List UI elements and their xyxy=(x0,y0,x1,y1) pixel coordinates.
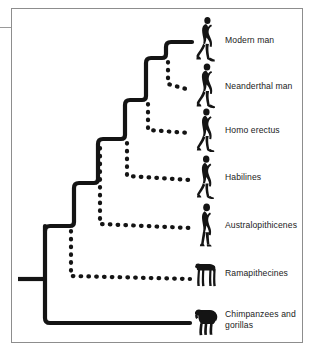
taxon-row-neanderthal-man[interactable]: Neanderthal man xyxy=(195,63,292,109)
taxon-label: Ramapithecines xyxy=(225,268,288,279)
standing-australopith-figure-icon xyxy=(195,203,219,247)
branch-dotted-homo-erectus xyxy=(148,104,190,133)
branch-root-trunk xyxy=(45,226,190,323)
branch-dotted-ramapithecines xyxy=(71,231,190,279)
walking-neanderthal-figure-icon xyxy=(195,63,219,109)
quadruped-ape-figure-icon xyxy=(195,257,219,289)
taxon-row-modern-man[interactable]: Modern man xyxy=(195,17,274,63)
taxon-label: Habilines xyxy=(225,172,261,183)
taxon-row-australopithicenes[interactable]: Australopithicenes xyxy=(195,203,297,247)
taxon-label: Chimpanzees and gorillas xyxy=(225,309,296,330)
taxon-label: Homo erectus xyxy=(225,125,280,136)
taxon-row-habilines[interactable]: Habilines xyxy=(195,155,261,199)
walking-human-figure-icon xyxy=(195,17,219,63)
walking-habiline-figure-icon xyxy=(195,155,219,199)
branch-dotted-neanderthal xyxy=(168,62,190,90)
taxon-label: Australopithicenes xyxy=(225,220,297,231)
taxon-row-homo-erectus[interactable]: Homo erectus xyxy=(195,108,280,152)
figure-canvas: Modern man Neanderthal man xyxy=(0,0,314,361)
walking-erectus-figure-icon xyxy=(195,108,219,152)
branch-dotted-australopithicenes xyxy=(100,148,190,228)
taxon-label: Modern man xyxy=(225,35,274,46)
taxon-label: Neanderthal man xyxy=(225,81,292,92)
taxon-row-chimpanzees-and-gorillas[interactable]: Chimpanzees and gorillas xyxy=(195,303,296,337)
gorilla-figure-icon xyxy=(195,303,219,337)
taxon-row-ramapithecines[interactable]: Ramapithecines xyxy=(195,257,288,289)
branch-dotted-habilines xyxy=(127,143,190,180)
